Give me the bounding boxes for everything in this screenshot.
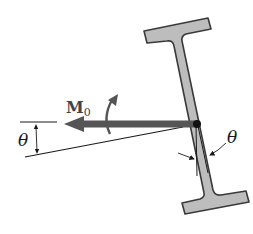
moment-label: M0 (66, 100, 91, 118)
i-beam (144, 18, 249, 214)
pivot-point (193, 120, 201, 128)
i-beam-shape (144, 18, 249, 214)
rotation-arrow-icon (106, 94, 118, 134)
angle-right-label: θ (227, 129, 237, 146)
moment-subscript: 0 (84, 106, 91, 119)
moment-symbol: M (66, 98, 84, 117)
angle-left-label: θ (18, 132, 28, 149)
i-beam-moment-diagram (0, 0, 253, 234)
inclined-reference-line (25, 127, 183, 157)
angle-left-dimension-icon (34, 124, 39, 154)
